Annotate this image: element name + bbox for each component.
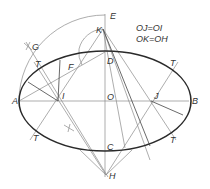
label-f: F [68, 62, 74, 72]
line-k-lower-2 [103, 29, 125, 148]
label-t: T [33, 133, 40, 143]
label-c: C [107, 142, 114, 152]
label-g: G [32, 42, 39, 52]
ellipse-construction-diagram: E K D G F A I O J B C H T T T T OJ=OI OK… [0, 0, 210, 189]
label-o: O [107, 92, 114, 102]
line-h-left [80, 150, 106, 175]
label-k: K [96, 25, 103, 35]
line-h-j [106, 62, 178, 175]
label-h: H [109, 171, 116, 181]
tick-mark [68, 124, 70, 132]
line-k-i [30, 29, 103, 140]
equation-notes: OJ=OI OK=OH [136, 23, 168, 44]
equation-oj-oi: OJ=OI [136, 23, 163, 33]
label-d: D [107, 56, 114, 66]
label-i: I [62, 91, 65, 101]
arrow-radius [103, 29, 150, 146]
radius-arrows [28, 29, 183, 146]
label-a: A [11, 96, 18, 106]
label-j: J [153, 91, 159, 101]
label-b: B [192, 96, 198, 106]
arrow-radius [28, 82, 58, 101]
equation-ok-oh: OK=OH [136, 34, 168, 44]
line-k-j [103, 29, 176, 140]
label-e: E [110, 11, 117, 21]
label-t: T [170, 58, 177, 68]
arrow-radius [151, 101, 183, 115]
